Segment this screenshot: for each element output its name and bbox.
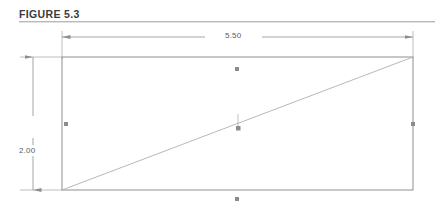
- page-title: FIGURE 5.3: [19, 8, 80, 20]
- figure-page: FIGURE 5.3: [0, 0, 442, 209]
- dimension-label-width: 5.50: [222, 31, 244, 40]
- figure-drawing: 5.50 2.00: [0, 26, 442, 209]
- marker-diagonal-midpoint: [236, 126, 241, 131]
- header-divider-shadow: [19, 22, 435, 23]
- drawing-markers: [64, 67, 415, 201]
- witness-lines-height: [20, 57, 62, 190]
- marker-right-center: [411, 122, 415, 126]
- marker-left-center: [64, 122, 68, 126]
- marker-bottom-center: [235, 197, 239, 201]
- diagonal-line: [62, 57, 413, 190]
- figure-header: FIGURE 5.3: [0, 0, 442, 26]
- dimension-label-height: 2.00: [17, 145, 37, 156]
- drawing-canvas: [0, 26, 442, 209]
- marker-top-center: [235, 67, 239, 71]
